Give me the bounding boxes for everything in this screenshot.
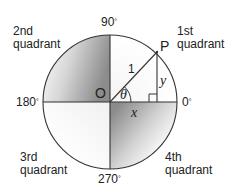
quadrant-1-label: 1st quadrant	[177, 25, 224, 51]
quadrant-3-line2: quadrant	[20, 164, 67, 177]
quadrant-2-line2: quadrant	[13, 38, 60, 51]
origin-label: O	[95, 87, 106, 100]
point-p	[156, 51, 158, 53]
angle-270-value: 270	[98, 172, 118, 186]
angle-180-value: 180	[16, 95, 36, 109]
quadrant-1-line2: quadrant	[177, 38, 224, 51]
degree-symbol: °	[189, 98, 192, 105]
x-label: x	[131, 106, 137, 119]
angle-270-label: 270°	[98, 173, 121, 186]
quadrant-2-label: 2nd quadrant	[13, 25, 60, 51]
angle-90-value: 90	[101, 15, 114, 29]
angle-0-value: 0	[182, 95, 189, 109]
theta-label: θ	[120, 88, 127, 101]
angle-180-label: 180°	[16, 96, 39, 109]
angle-0-label: 0°	[182, 96, 192, 109]
degree-symbol: °	[118, 175, 121, 182]
quadrant-3-label: 3rd quadrant	[20, 151, 67, 177]
quadrant-4-line2: quadrant	[165, 164, 212, 177]
angle-90-label: 90°	[101, 16, 117, 29]
y-label: y	[160, 74, 166, 87]
radius-label: 1	[128, 63, 135, 76]
degree-symbol: °	[114, 18, 117, 25]
degree-symbol: °	[36, 98, 39, 105]
quadrant-4-label: 4th quadrant	[165, 151, 212, 177]
point-p-label: P	[160, 40, 169, 53]
